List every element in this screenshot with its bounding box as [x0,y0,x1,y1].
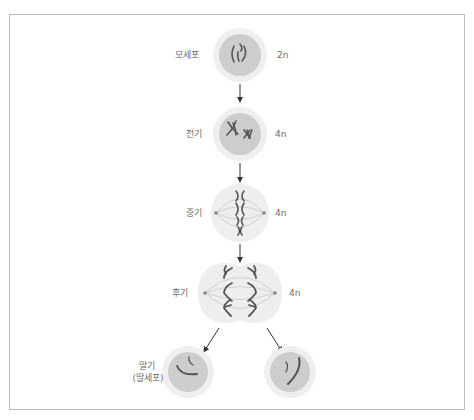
prophase-cell [213,107,267,161]
ploidy-label-mother: 2n [277,50,288,61]
daughter-cell-right [264,346,316,398]
arrow-icon [205,328,219,350]
ploidy-label-anaphase: 4n [289,288,300,299]
arrow-icon [267,328,281,350]
stage-label-mother: 모세포 [175,50,199,61]
ploidy-label-prophase: 4n [275,129,286,140]
mitosis-diagram [0,0,474,420]
anaphase-cell [198,263,282,323]
stage-label-metaphase: 중기 [186,208,202,219]
stage-sublabel-daughter: (딸세포) [128,373,168,384]
ploidy-label-metaphase: 4n [275,208,286,219]
mother-cell [213,28,267,82]
stage-label-daughter: 말기 [132,361,162,372]
stage-label-prophase: 전기 [186,129,202,140]
stage-label-anaphase: 후기 [172,288,188,299]
daughter-cell-left [162,346,214,398]
metaphase-cell [211,184,269,242]
